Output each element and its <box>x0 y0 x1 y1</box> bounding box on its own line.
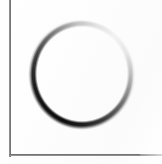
page-border-bottom-rule-tail <box>140 154 162 156</box>
circle-stroke <box>30 20 134 128</box>
hand-drawn-circle-mark <box>30 20 134 128</box>
scanned-page-canvas: A soft-edged hand-drawn circle outline o… <box>0 0 162 164</box>
page-border-left-rule <box>9 0 11 157</box>
